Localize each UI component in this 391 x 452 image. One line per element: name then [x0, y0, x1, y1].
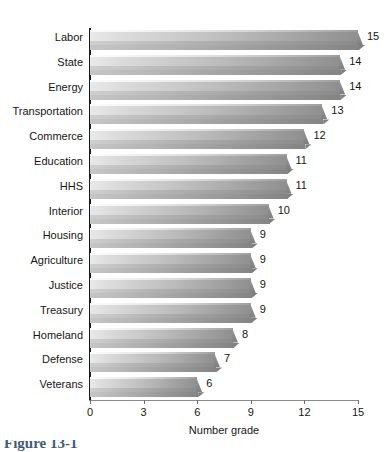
x-axis-tick-label: 15 [343, 405, 373, 419]
x-axis-line [89, 400, 359, 401]
bar-shadow-chamfer [270, 219, 276, 224]
x-axis-tick [358, 400, 359, 404]
bar-face [90, 129, 304, 144]
bar-shadow-chamfer [216, 367, 222, 372]
x-axis-tick [304, 400, 305, 404]
bar-row: 14 [90, 78, 391, 103]
bar-shadow-chamfer [341, 70, 347, 75]
y-axis-category-label: Treasury [0, 303, 83, 318]
bar [90, 129, 304, 144]
bar-value-label: 11 [296, 153, 307, 168]
bar-value-label: 9 [260, 277, 266, 292]
bar-shadow-chamfer [305, 144, 311, 149]
bar-end-chamfer [232, 328, 238, 343]
bar-row: 12 [90, 127, 391, 152]
figure-caption: Figure 13-1 [4, 440, 144, 452]
bar-end-chamfer [250, 253, 256, 268]
bar-value-label: 12 [313, 128, 325, 143]
bar-row: 9 [90, 251, 391, 276]
bar [90, 80, 340, 95]
bar [90, 303, 251, 318]
y-axis-category-label: State [0, 55, 83, 70]
bar-row: 15 [90, 28, 391, 53]
bar-end-chamfer [250, 278, 256, 293]
bar [90, 228, 251, 243]
bar-shadow [90, 367, 216, 372]
bar-face [90, 80, 340, 95]
y-axis-category-label: Housing [0, 228, 83, 243]
bar-shadow [90, 343, 234, 348]
bar-value-label: 9 [260, 302, 266, 317]
y-axis-category-label: HHS [0, 179, 83, 194]
bar-value-label: 15 [367, 29, 379, 44]
x-axis-tick-label: 6 [182, 405, 212, 419]
bar-value-label: 13 [331, 103, 343, 118]
bar-value-label: 10 [278, 203, 290, 218]
bar [90, 328, 233, 343]
x-axis-tick [197, 400, 198, 404]
bar-shadow [90, 194, 288, 199]
bar-shadow [90, 169, 288, 174]
bar-end-chamfer [214, 352, 220, 367]
bar-face [90, 253, 251, 268]
x-axis-tick [144, 400, 145, 404]
bar-face [90, 179, 287, 194]
bar-shadow [90, 243, 252, 248]
bar-face [90, 377, 197, 392]
bar [90, 204, 269, 219]
bar-shadow-chamfer [359, 45, 365, 50]
bar-shadow [90, 144, 305, 149]
bar-shadow-chamfer [252, 268, 258, 273]
x-axis-tick [90, 400, 91, 404]
x-axis-tick-label: 9 [236, 405, 266, 419]
bar-value-label: 7 [224, 351, 230, 366]
bar-shadow-chamfer [323, 119, 329, 124]
bar-face [90, 204, 269, 219]
y-axis-category-label: Homeland [0, 328, 83, 343]
bar-face [90, 154, 287, 169]
bar [90, 253, 251, 268]
bar-end-chamfer [321, 104, 327, 119]
bar-value-label: 11 [296, 178, 307, 193]
bar-shadow [90, 293, 252, 298]
bar-face [90, 352, 215, 367]
bar-shadow-chamfer [252, 243, 258, 248]
bar [90, 55, 340, 70]
bar-face [90, 328, 233, 343]
bar-shadow-chamfer [288, 194, 294, 199]
bar [90, 104, 322, 119]
bar-row: 11 [90, 152, 391, 177]
bar-shadow [90, 70, 341, 75]
bar-shadow [90, 45, 359, 50]
bar-face [90, 303, 251, 318]
bar-shadow-chamfer [288, 169, 294, 174]
y-axis-category-label: Defense [0, 352, 83, 367]
bar-shadow [90, 95, 341, 100]
bar-row: 9 [90, 226, 391, 251]
bar-row: 10 [90, 202, 391, 227]
bar [90, 352, 215, 367]
bar-row: 14 [90, 53, 391, 78]
y-axis-category-label: Labor [0, 30, 83, 45]
bar-end-chamfer [286, 154, 292, 169]
y-axis-category-label: Veterans [0, 377, 83, 392]
bar-shadow-chamfer [234, 343, 240, 348]
x-axis-title: Number grade [90, 424, 358, 436]
bar-end-chamfer [339, 80, 345, 95]
y-axis-category-label: Justice [0, 278, 83, 293]
y-axis-category-label: Commerce [0, 129, 83, 144]
y-axis-category-label: Education [0, 154, 83, 169]
bar-face [90, 55, 340, 70]
x-axis-tick-label: 0 [75, 405, 105, 419]
bar [90, 278, 251, 293]
bar-value-label: 14 [349, 54, 361, 69]
bar-value-label: 9 [260, 252, 266, 267]
bar-end-chamfer [286, 179, 292, 194]
bar-end-chamfer [250, 228, 256, 243]
bar-chart: LaborStateEnergyTransportationCommerceEd… [0, 0, 391, 452]
bar-shadow [90, 268, 252, 273]
bar [90, 179, 287, 194]
bar-shadow-chamfer [341, 95, 347, 100]
bar-row: 13 [90, 102, 391, 127]
bar [90, 377, 197, 392]
